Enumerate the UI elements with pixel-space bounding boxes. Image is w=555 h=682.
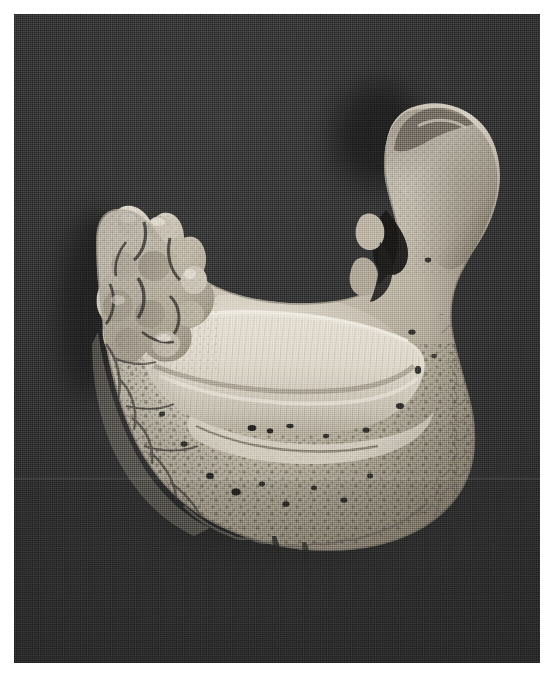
photograph [14,14,540,663]
photo-alt-text: Black and white photograph of a dry huma… [0,0,1,1]
specimen-label: mandible (lower jaw) [0,0,1,1]
photographic-plate: Black and white photograph of a dry huma… [0,0,555,682]
specimen-bone [14,14,540,663]
plate-caption [0,0,1,1]
